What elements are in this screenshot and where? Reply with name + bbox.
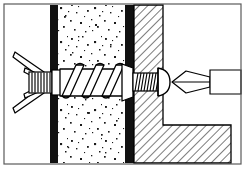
anchor-neck — [29, 72, 52, 93]
driver-shaft — [210, 70, 241, 94]
screw-thread-fine — [133, 73, 160, 91]
figure-root: Cross-section: expansion wall anchor wit… — [0, 0, 245, 171]
screw-thread-coarse — [60, 64, 126, 99]
wall-anchor-cross-section-diagram — [0, 0, 245, 171]
screw-collar — [122, 64, 133, 101]
